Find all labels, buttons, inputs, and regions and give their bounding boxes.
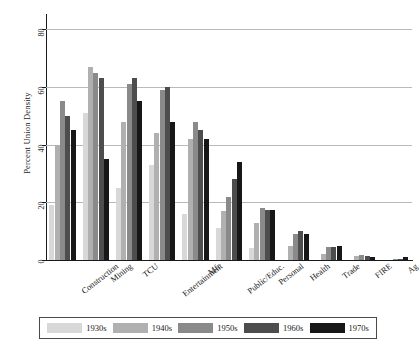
bar-group: [116, 15, 143, 260]
bar: [365, 256, 370, 260]
bar: [232, 179, 237, 260]
bar: [71, 130, 76, 260]
y-tick-label-0: 0: [37, 260, 46, 264]
bar: [270, 210, 275, 260]
bar: [288, 246, 293, 260]
legend-label: 1960s: [283, 323, 303, 333]
union-density-bar-chart: Percent Union Density 020406080 Construc…: [0, 0, 419, 350]
legend-swatch-icon: [113, 323, 148, 333]
bar: [249, 248, 254, 260]
bar: [403, 257, 408, 260]
legend-item[interactable]: 1940s: [113, 323, 172, 333]
bar: [326, 247, 331, 260]
bar: [265, 210, 270, 260]
bar: [182, 214, 187, 260]
bar: [254, 223, 259, 260]
bar: [354, 256, 359, 260]
legend-swatch-icon: [244, 323, 279, 333]
bar: [370, 257, 375, 260]
bar: [321, 254, 326, 260]
legend-label: 1970s: [349, 323, 369, 333]
bar: [116, 188, 121, 260]
legend-item[interactable]: 1950s: [178, 323, 237, 333]
legend-swatch-icon: [178, 323, 213, 333]
x-axis-label: Ag: [405, 261, 419, 275]
bar: [49, 205, 54, 260]
bar: [160, 90, 165, 260]
bar: [83, 113, 88, 260]
bar: [193, 122, 198, 260]
y-tick-label-60: 60: [37, 87, 46, 95]
bar: [65, 116, 70, 260]
bar: [260, 208, 265, 260]
legend-item[interactable]: 1960s: [244, 323, 303, 333]
bar: [221, 211, 226, 260]
plot-area: 020406080: [46, 15, 412, 260]
bar: [132, 78, 137, 260]
bar: [188, 139, 193, 260]
y-tick-label-20: 20: [37, 202, 46, 210]
bar: [165, 87, 170, 260]
y-axis-title: Percent Union Density: [22, 53, 32, 213]
bar: [154, 133, 159, 260]
bar: [60, 101, 65, 260]
bar: [149, 165, 154, 260]
bar: [331, 247, 336, 260]
legend-item[interactable]: 1970s: [310, 323, 369, 333]
bar-group: [216, 15, 243, 260]
bar-group: [349, 15, 376, 260]
bar: [137, 101, 142, 260]
bar: [198, 130, 203, 260]
bar-group: [282, 15, 309, 260]
bar: [170, 122, 175, 260]
legend-swatch-icon: [47, 323, 82, 333]
y-tick-label-80: 80: [37, 29, 46, 37]
bar: [226, 197, 231, 260]
bar: [127, 84, 132, 260]
bar: [216, 228, 221, 260]
bar-group: [382, 15, 409, 260]
x-axis-label: FIRE: [373, 261, 394, 280]
legend-label: 1930s: [86, 323, 106, 333]
bar: [337, 246, 342, 260]
legend-swatch-icon: [310, 323, 345, 333]
legend-label: 1950s: [217, 323, 237, 333]
bar: [99, 78, 104, 260]
bar: [237, 162, 242, 260]
bar-group: [249, 15, 276, 260]
bar: [359, 255, 364, 260]
bar-group: [149, 15, 176, 260]
bar: [393, 259, 398, 260]
bar: [88, 67, 93, 260]
bar: [298, 231, 303, 260]
bar-series-container: [46, 15, 412, 260]
x-axis-label: TCU: [140, 261, 160, 279]
bar: [204, 139, 209, 260]
bar: [398, 259, 403, 260]
bar: [121, 122, 126, 260]
bar-group: [316, 15, 343, 260]
x-axis-label: Trade: [340, 261, 362, 281]
bar: [104, 159, 109, 260]
bar: [304, 234, 309, 260]
x-axis-category-labels: ConstructionMiningTCUEntertainmentMfrPub…: [46, 261, 412, 311]
legend: 1930s1940s1950s1960s1970s: [39, 317, 377, 339]
legend-item[interactable]: 1930s: [47, 323, 106, 333]
legend-label: 1940s: [152, 323, 172, 333]
bar-group: [83, 15, 110, 260]
bar-group: [182, 15, 209, 260]
y-tick-label-40: 40: [37, 144, 46, 152]
bar: [93, 73, 98, 260]
x-axis-label: Health: [308, 261, 332, 283]
bar: [293, 234, 298, 260]
bar: [55, 145, 60, 260]
bar-group: [49, 15, 76, 260]
